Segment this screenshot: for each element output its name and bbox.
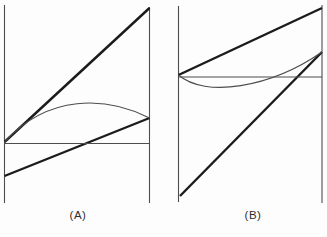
panel-b-lower-diagonal-line bbox=[180, 52, 322, 196]
panel-a-label: (A) bbox=[70, 209, 87, 221]
figure-canvas bbox=[0, 0, 327, 237]
panel-b-lower-dip-curve bbox=[179, 52, 323, 87]
panel-b bbox=[179, 5, 323, 203]
panel-a-lower-diagonal-line bbox=[5, 118, 150, 176]
panel-a-upper-diagonal-line bbox=[5, 8, 150, 142]
panel-b-label: (B) bbox=[245, 209, 262, 221]
panel-a bbox=[5, 5, 150, 203]
figure: (A) (B) bbox=[0, 0, 327, 237]
panel-a-upper-bulge-curve bbox=[5, 103, 150, 142]
